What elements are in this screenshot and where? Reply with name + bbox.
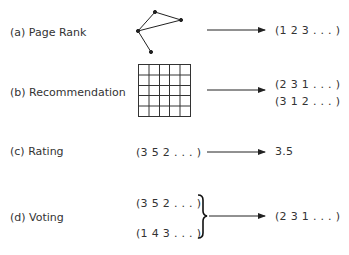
page-rank-graph-icon [136,10,182,53]
recommendation-matrix-icon [139,65,191,117]
voting-input-1: (3 5 2 . . . ) [136,197,201,210]
voting-output: (2 3 1 . . . ) [275,210,340,223]
rating-input: (3 5 2 . . . ) [136,146,201,159]
rating-output: 3.5 [275,145,293,158]
recommendation-output-1: (2 3 1 . . . ) [275,78,340,91]
recommendation-output-2: (3 1 2 . . . ) [275,95,340,108]
page-rank-output: (1 2 3 . . . ) [275,24,340,37]
voting-input-2: (1 4 3 . . . ) [136,227,201,240]
